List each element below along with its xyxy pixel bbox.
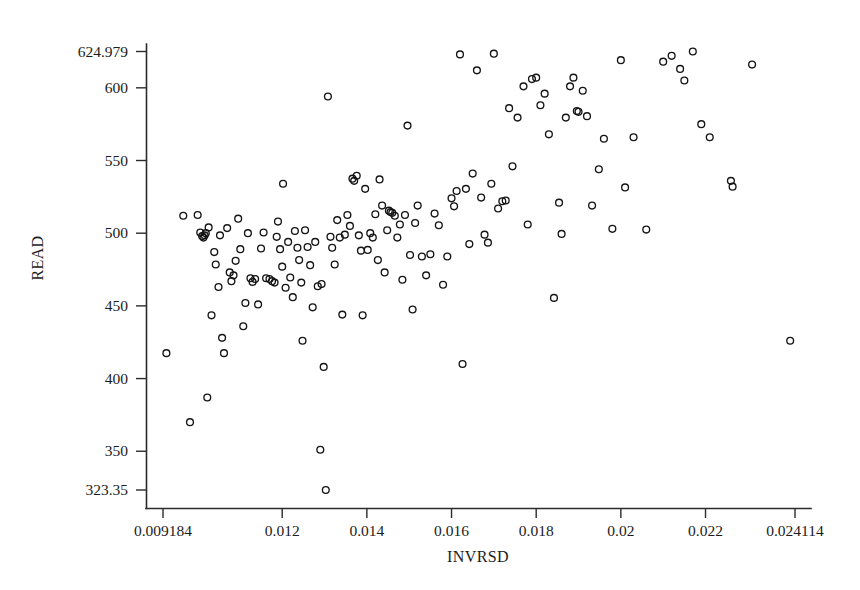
data-point bbox=[287, 274, 294, 281]
data-point bbox=[285, 239, 292, 246]
data-point bbox=[364, 247, 371, 254]
data-point bbox=[463, 185, 470, 192]
data-point bbox=[245, 230, 252, 237]
data-point bbox=[399, 276, 406, 283]
data-point bbox=[235, 215, 242, 222]
data-point bbox=[329, 244, 336, 251]
data-point bbox=[668, 52, 675, 59]
data-point bbox=[299, 337, 306, 344]
data-point bbox=[589, 202, 596, 209]
data-point bbox=[237, 246, 244, 253]
data-point bbox=[217, 232, 224, 239]
data-point bbox=[524, 221, 531, 228]
data-point bbox=[317, 446, 324, 453]
data-point bbox=[279, 263, 286, 270]
data-point bbox=[495, 205, 502, 212]
data-point bbox=[444, 253, 451, 260]
data-point bbox=[423, 272, 430, 279]
data-points-group bbox=[163, 48, 794, 493]
data-point bbox=[529, 76, 536, 83]
scatter-plot-figure: 323.35350400450500550600624.979 0.009184… bbox=[0, 0, 860, 590]
data-point bbox=[331, 261, 338, 268]
data-point bbox=[601, 135, 608, 142]
data-point bbox=[409, 306, 416, 313]
data-point bbox=[749, 61, 756, 68]
x-tick-label: 0.012 bbox=[265, 523, 300, 539]
data-point bbox=[219, 334, 226, 341]
data-point bbox=[643, 226, 650, 233]
data-point bbox=[412, 220, 419, 227]
data-point bbox=[617, 57, 624, 64]
data-point bbox=[277, 246, 284, 253]
data-point bbox=[307, 262, 314, 269]
data-point bbox=[706, 134, 713, 141]
data-point bbox=[533, 74, 540, 81]
data-point bbox=[224, 225, 231, 232]
data-point bbox=[609, 225, 616, 232]
data-point bbox=[787, 337, 794, 344]
data-point bbox=[205, 224, 212, 231]
data-point bbox=[551, 294, 558, 301]
data-point bbox=[320, 364, 327, 371]
data-point bbox=[312, 239, 319, 246]
data-point bbox=[215, 284, 222, 291]
data-point bbox=[481, 231, 488, 238]
data-point bbox=[556, 199, 563, 206]
data-point bbox=[309, 304, 316, 311]
data-point bbox=[469, 170, 476, 177]
data-point bbox=[407, 252, 414, 259]
data-point bbox=[187, 419, 194, 426]
y-tick-label: 500 bbox=[0, 225, 128, 241]
data-point bbox=[282, 284, 289, 291]
data-point bbox=[325, 93, 332, 100]
data-point bbox=[221, 350, 228, 357]
x-tick-label: 0.024114 bbox=[766, 523, 824, 539]
data-point bbox=[431, 210, 438, 217]
data-point bbox=[304, 244, 311, 251]
data-point bbox=[506, 105, 513, 112]
data-point bbox=[358, 247, 365, 254]
data-point bbox=[372, 211, 379, 218]
data-point bbox=[514, 114, 521, 121]
data-point bbox=[260, 229, 267, 236]
data-point bbox=[689, 48, 696, 55]
data-point bbox=[327, 233, 334, 240]
data-point bbox=[273, 233, 280, 240]
data-point bbox=[474, 67, 481, 74]
data-point bbox=[339, 311, 346, 318]
data-point bbox=[509, 163, 516, 170]
data-point bbox=[294, 244, 301, 251]
data-point bbox=[355, 232, 362, 239]
x-tick-label: 0.02 bbox=[607, 523, 634, 539]
data-point bbox=[292, 228, 299, 235]
data-point bbox=[289, 294, 296, 301]
data-point bbox=[537, 102, 544, 109]
data-point bbox=[660, 58, 667, 65]
plot-canvas bbox=[0, 0, 860, 590]
data-point bbox=[180, 212, 187, 219]
data-point bbox=[255, 301, 262, 308]
x-tick-label: 0.022 bbox=[688, 523, 723, 539]
data-point bbox=[558, 231, 565, 238]
y-tick-label: 600 bbox=[0, 80, 128, 96]
y-tick-label: 550 bbox=[0, 153, 128, 169]
data-point bbox=[677, 66, 684, 73]
data-point bbox=[302, 227, 309, 234]
data-point bbox=[208, 312, 215, 319]
data-point bbox=[478, 194, 485, 201]
x-tick-label: 0.014 bbox=[349, 523, 384, 539]
data-point bbox=[541, 90, 548, 97]
data-point bbox=[414, 202, 421, 209]
data-point bbox=[359, 312, 366, 319]
y-tick-label: 450 bbox=[0, 298, 128, 314]
data-point bbox=[579, 87, 586, 94]
data-point bbox=[296, 257, 303, 264]
data-point bbox=[570, 74, 577, 81]
data-point bbox=[419, 253, 426, 260]
data-point bbox=[622, 184, 629, 191]
data-point bbox=[322, 487, 329, 494]
data-point bbox=[520, 83, 527, 90]
data-point bbox=[275, 218, 282, 225]
data-point bbox=[584, 113, 591, 120]
data-point bbox=[681, 77, 688, 84]
